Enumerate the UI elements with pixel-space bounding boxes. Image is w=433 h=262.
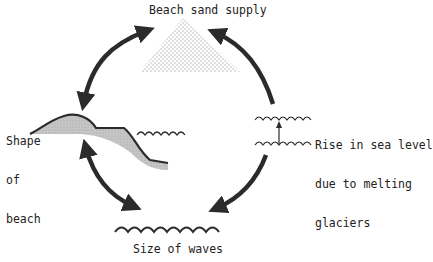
beach-profile-icon xyxy=(30,115,168,170)
sea-level-line-1: Rise in sea level xyxy=(315,139,433,152)
shape-of-beach-line-3: beach xyxy=(6,213,41,226)
arrow-sealevel-to-waves xyxy=(217,155,266,208)
sand-pile-icon xyxy=(140,18,240,72)
arrow-shape-to-waves xyxy=(86,148,133,206)
sea-level-rise-label: Rise in sea level due to melting glacier… xyxy=(315,113,433,243)
beach-sand-supply-label: Beach sand supply xyxy=(149,4,267,17)
sea-level-rise-icon xyxy=(255,117,311,145)
shape-of-beach-line-1: Shape xyxy=(6,135,41,148)
shape-of-beach-label: Shape of beach xyxy=(6,109,41,239)
shape-of-beach-line-2: of xyxy=(6,174,41,187)
sea-level-line-3: glaciers xyxy=(315,217,433,230)
sea-level-line-2: due to melting xyxy=(315,178,433,191)
size-of-waves-label: Size of waves xyxy=(133,243,223,256)
arrow-sand-to-shape xyxy=(84,31,146,102)
size-of-waves-icon xyxy=(115,228,219,233)
beach-waves-icon xyxy=(137,132,185,135)
